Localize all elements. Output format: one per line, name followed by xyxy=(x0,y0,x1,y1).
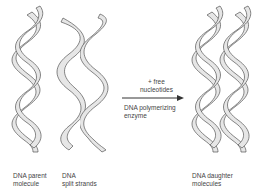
dna-daughter-helix-2-icon xyxy=(218,0,254,155)
label-parent-line1: DNA parent xyxy=(13,172,47,180)
arrow-label-below-2: enzyme xyxy=(124,112,147,120)
right-arrow-icon xyxy=(122,94,184,102)
arrow-label-above-1: + free xyxy=(148,78,165,86)
label-daughter-line2: molecules xyxy=(192,180,233,188)
label-daughter-line1: DNA daughter xyxy=(192,172,233,180)
label-split-line2: split strands xyxy=(62,180,97,188)
label-parent: DNA parent molecule xyxy=(13,172,47,188)
label-parent-line2: molecule xyxy=(13,180,47,188)
arrow-label-below-1: DNA polymerizing xyxy=(124,104,176,112)
label-daughter: DNA daughter molecules xyxy=(192,172,233,188)
dna-parent-double-helix-icon xyxy=(10,0,46,155)
arrow-label-above-2: nucleotides xyxy=(140,86,173,94)
dna-split-strand-2-icon xyxy=(80,0,112,155)
label-split-line1: DNA xyxy=(62,172,97,180)
label-split: DNA split strands xyxy=(62,172,97,188)
